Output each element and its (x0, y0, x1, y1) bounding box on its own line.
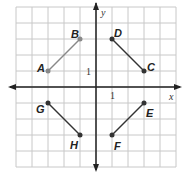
x-axis (8, 84, 182, 90)
label-f: F (114, 140, 121, 152)
point-c (142, 69, 147, 74)
label-g: G (36, 103, 45, 115)
x-axis-left-arrow-icon (8, 84, 16, 90)
point-h (78, 133, 83, 138)
label-h: H (70, 139, 79, 151)
coordinate-plane: y x 1 1 A B C D E F G H (0, 0, 187, 181)
point-g (46, 101, 51, 106)
label-c: C (147, 61, 156, 73)
label-e: E (146, 107, 154, 119)
x-axis-right-arrow-icon (174, 84, 182, 90)
label-b: B (71, 28, 79, 40)
x-tick-label: 1 (110, 90, 115, 101)
point-e (142, 101, 147, 106)
y-axis-down-arrow-icon (93, 164, 99, 172)
y-axis-up-arrow-icon (93, 2, 99, 10)
point-f (110, 133, 115, 138)
point-a (46, 69, 51, 74)
label-d: D (114, 27, 122, 39)
y-tick-label: 1 (86, 66, 91, 77)
x-axis-label: x (168, 91, 174, 102)
y-axis-label: y (100, 7, 106, 18)
label-a: A (36, 62, 45, 74)
